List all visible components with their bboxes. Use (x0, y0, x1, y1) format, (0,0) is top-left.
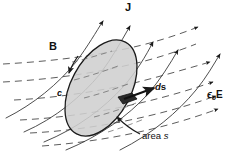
electric-field-symbol: E (216, 89, 223, 100)
displacement-field-label: ϵoE (207, 90, 223, 101)
area-element-label: ds (155, 82, 166, 92)
area-caption: area s (142, 131, 168, 141)
area-caption-symbol: s (164, 130, 169, 141)
contour-label: c (57, 89, 62, 98)
area-element-s: s (161, 81, 166, 92)
diagram-canvas (0, 0, 244, 156)
magnetic-field-label: B (49, 41, 57, 52)
area-caption-prefix: area (142, 130, 164, 141)
field-through-surface-diagram: B J c ds ϵoE area s (0, 0, 244, 156)
current-density-label: J (125, 2, 131, 13)
